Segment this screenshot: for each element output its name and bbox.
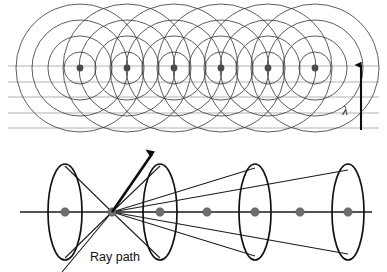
axis-dot <box>156 208 164 216</box>
axis-dot <box>344 208 352 216</box>
source-dot <box>171 65 178 72</box>
source-dot <box>77 65 84 72</box>
axis-dot <box>296 208 304 216</box>
ray-path-label: Ray path <box>90 250 140 264</box>
source-dot <box>218 65 225 72</box>
figure-root: λ Ray path <box>0 0 387 272</box>
source-dot <box>312 65 319 72</box>
canvas-background <box>0 0 387 272</box>
axis-dot <box>251 208 259 216</box>
source-dot <box>265 65 272 72</box>
wavelength-label: λ <box>341 103 348 118</box>
source-dot <box>124 65 131 72</box>
axis-dot <box>61 208 69 216</box>
axis-dot <box>203 208 211 216</box>
wave-diagram-svg: λ Ray path <box>0 0 387 272</box>
